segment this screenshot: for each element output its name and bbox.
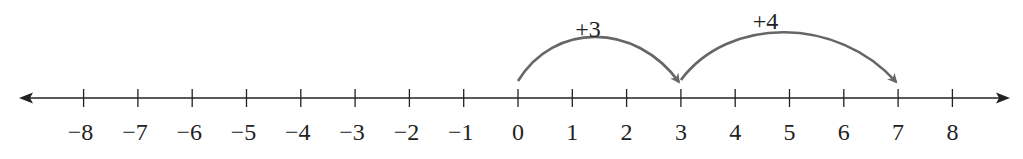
tick-label: 4: [729, 119, 741, 145]
jump-arc-1: [518, 37, 679, 82]
tick-label: 8: [946, 119, 958, 145]
tick-label: −7: [122, 119, 148, 145]
tick-label: 7: [892, 119, 904, 145]
jump-arc-2: [681, 32, 896, 82]
tick-label: 1: [566, 119, 578, 145]
tick-label: −6: [176, 119, 202, 145]
tick-label: −1: [448, 119, 474, 145]
tick-label: −2: [394, 119, 420, 145]
tick-labels: −8−7−6−5−4−3−2−1012345678: [68, 119, 959, 145]
number-line-svg: −8−7−6−5−4−3−2−1012345678 +3+4: [0, 0, 1023, 159]
jump-label-1: +3: [575, 16, 601, 42]
number-line-diagram: −8−7−6−5−4−3−2−1012345678 +3+4: [0, 0, 1023, 159]
tick-label: −4: [285, 119, 311, 145]
tick-label: −3: [339, 119, 365, 145]
tick-label: −5: [231, 119, 257, 145]
tick-label: 3: [675, 119, 687, 145]
jump-label-2: +4: [753, 8, 779, 34]
tick-label: 6: [838, 119, 850, 145]
number-line-axis: [19, 93, 1010, 104]
jump-arrows: +3+4: [518, 8, 896, 82]
tick-label: −8: [68, 119, 94, 145]
tick-label: 5: [784, 119, 796, 145]
tick-label: 2: [621, 119, 633, 145]
tick-label: 0: [512, 119, 524, 145]
